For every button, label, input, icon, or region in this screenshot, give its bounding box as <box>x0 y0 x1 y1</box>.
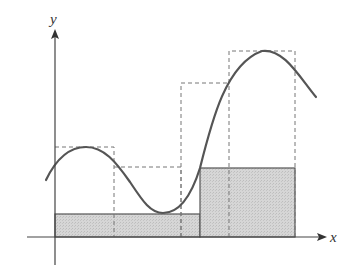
lower-rect-2 <box>200 168 295 237</box>
lower-rectangles <box>55 168 295 237</box>
y-axis-label: y <box>48 11 57 27</box>
lower-rect-1 <box>55 214 200 237</box>
x-axis-label: x <box>329 229 337 245</box>
riemann-sum-diagram: x y <box>0 0 357 278</box>
